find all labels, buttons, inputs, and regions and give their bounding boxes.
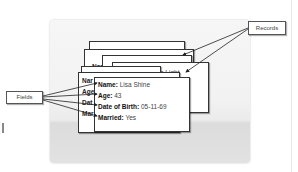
field-value: Lisa Shine: [120, 81, 150, 88]
record-card-lisa: Name: Lisa Shine Age: 43 Date of Birth: …: [94, 77, 190, 132]
field-value: 43: [114, 92, 121, 99]
field-label: Date of Birth:: [98, 103, 141, 110]
field-value: 05-11-69: [141, 103, 167, 110]
page-edge-rule: [291, 0, 292, 172]
lisa-field-dob: Date of Birth: 05-11-69: [98, 103, 167, 110]
stub-dob: Dat: [82, 99, 92, 106]
field-label: Married:: [98, 114, 125, 121]
field-value: Yes: [125, 114, 136, 121]
stub-age: Age: [82, 88, 94, 95]
field-label: Age:: [98, 92, 114, 99]
records-label: Records: [256, 25, 278, 31]
page-edge-mark: [2, 123, 4, 133]
lisa-field-age: Age: 43: [98, 92, 121, 99]
records-callout: Records: [248, 21, 286, 35]
lisa-field-married: Married: Yes: [98, 114, 136, 121]
stub-name: Nar: [82, 77, 93, 84]
lisa-field-name: Name: Lisa Shine: [98, 81, 150, 88]
fields-callout: Fields: [6, 91, 43, 104]
field-label: Name:: [98, 81, 120, 88]
fields-label: Fields: [16, 94, 32, 100]
stub-married: Mar: [82, 110, 94, 117]
